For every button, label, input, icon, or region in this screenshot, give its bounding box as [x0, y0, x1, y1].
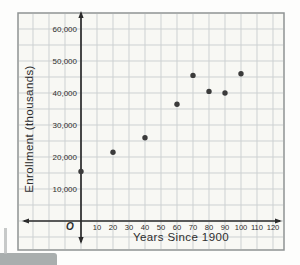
y-tick-label: 50,000 — [53, 57, 78, 66]
x-tick-label: 100 — [235, 223, 248, 232]
data-point — [142, 135, 147, 140]
x-tick-label: 120 — [267, 223, 280, 232]
y-tick-label: 60,000 — [53, 25, 78, 34]
page-edge-scan-artifact — [0, 253, 57, 265]
enrollment-scatter-plot: 102030405060708090100110120 10,00020,000… — [0, 0, 300, 265]
y-tick-label: 10,000 — [53, 185, 78, 194]
textbook-page: 102030405060708090100110120 10,00020,000… — [0, 0, 300, 265]
page-edge-scan-artifact — [4, 228, 7, 254]
y-tick-label: 40,000 — [53, 89, 78, 98]
data-point — [222, 90, 227, 95]
y-axis-title: Enrollment (thousands) — [23, 65, 35, 193]
figure-frame — [18, 13, 284, 250]
x-tick-label: 10 — [93, 223, 101, 232]
x-axis-title: Years Since 1900 — [133, 231, 229, 243]
data-point — [174, 102, 179, 107]
origin-label: O — [66, 221, 74, 232]
data-point — [238, 71, 243, 76]
data-point — [78, 169, 83, 174]
x-tick-label: 110 — [251, 223, 263, 232]
data-point — [190, 73, 195, 78]
x-tick-label: 20 — [109, 223, 117, 232]
y-tick-label: 30,000 — [53, 121, 78, 130]
y-tick-label: 20,000 — [53, 153, 78, 162]
data-point — [206, 89, 211, 94]
data-point — [110, 150, 115, 155]
